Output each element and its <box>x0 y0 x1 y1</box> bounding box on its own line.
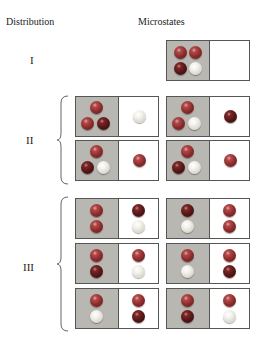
dark-red-ball-icon <box>90 265 103 278</box>
red-ball-icon <box>133 154 146 167</box>
white-ball-icon <box>181 220 194 233</box>
microstate-i-1 <box>166 40 250 81</box>
red-ball-icon <box>90 145 103 158</box>
red-ball-icon <box>132 249 145 262</box>
white-ball-icon <box>188 117 201 130</box>
white-ball-icon <box>97 161 110 174</box>
microstate-iii-5 <box>75 288 159 329</box>
red-ball-icon <box>181 249 194 262</box>
brace-ii-icon <box>56 95 70 185</box>
dark-red-ball-icon <box>224 110 237 123</box>
microstate-iii-1 <box>75 198 159 239</box>
white-compartment <box>210 289 249 328</box>
gray-compartment <box>167 141 210 180</box>
microstates-header: Microstates <box>138 16 185 28</box>
red-ball-icon <box>224 154 237 167</box>
red-ball-icon <box>81 117 94 130</box>
dark-red-ball-icon <box>132 310 145 323</box>
microstate-ii-1 <box>75 96 159 137</box>
red-ball-icon <box>181 101 194 114</box>
red-ball-icon <box>90 220 103 233</box>
white-compartment <box>119 199 158 238</box>
white-compartment <box>210 199 249 238</box>
distribution-header: Distribution <box>6 16 54 28</box>
brace-iii-icon <box>56 196 70 332</box>
white-compartment <box>210 41 249 80</box>
red-ball-icon <box>90 294 103 307</box>
dark-red-ball-icon <box>132 204 145 217</box>
dark-red-ball-icon <box>181 204 194 217</box>
white-compartment <box>119 141 158 180</box>
white-compartment <box>210 244 249 283</box>
gray-compartment <box>76 244 119 283</box>
gray-compartment <box>167 41 210 80</box>
white-compartment <box>119 244 158 283</box>
white-compartment <box>210 97 249 136</box>
red-ball-icon <box>132 294 145 307</box>
gray-compartment <box>76 97 119 136</box>
microstate-ii-3 <box>75 140 159 181</box>
red-ball-icon <box>90 204 103 217</box>
white-ball-icon <box>223 310 236 323</box>
white-ball-icon <box>133 110 146 123</box>
distribution-label-i: I <box>30 54 34 66</box>
dark-red-ball-icon <box>97 117 110 130</box>
dark-red-ball-icon <box>174 62 187 75</box>
distribution-label-iii: III <box>23 261 34 273</box>
white-compartment <box>119 289 158 328</box>
microstate-iii-6 <box>166 288 250 329</box>
gray-compartment <box>167 244 210 283</box>
red-ball-icon <box>90 249 103 262</box>
gray-compartment <box>167 97 210 136</box>
white-ball-icon <box>181 265 194 278</box>
microstate-ii-4 <box>166 140 250 181</box>
red-ball-icon <box>223 249 236 262</box>
red-ball-icon <box>223 220 236 233</box>
white-compartment <box>119 97 158 136</box>
gray-compartment <box>76 289 119 328</box>
red-ball-icon <box>223 294 236 307</box>
red-ball-icon <box>181 145 194 158</box>
dark-red-ball-icon <box>81 161 94 174</box>
gray-compartment <box>167 289 210 328</box>
microstate-iii-3 <box>75 243 159 284</box>
red-ball-icon <box>172 117 185 130</box>
white-ball-icon <box>90 310 103 323</box>
dark-red-ball-icon <box>223 265 236 278</box>
red-ball-icon <box>174 46 187 59</box>
dark-red-ball-icon <box>172 161 185 174</box>
white-ball-icon <box>132 265 145 278</box>
distribution-label-ii: II <box>26 134 33 146</box>
red-ball-icon <box>189 46 202 59</box>
white-compartment <box>210 141 249 180</box>
red-ball-icon <box>90 101 103 114</box>
gray-compartment <box>76 141 119 180</box>
red-ball-icon <box>223 204 236 217</box>
microstate-iii-4 <box>166 243 250 284</box>
dark-red-ball-icon <box>181 310 194 323</box>
gray-compartment <box>167 199 210 238</box>
microstate-ii-2 <box>166 96 250 137</box>
red-ball-icon <box>181 294 194 307</box>
white-ball-icon <box>189 62 202 75</box>
gray-compartment <box>76 199 119 238</box>
white-ball-icon <box>188 161 201 174</box>
microstate-iii-2 <box>166 198 250 239</box>
white-ball-icon <box>132 220 145 233</box>
